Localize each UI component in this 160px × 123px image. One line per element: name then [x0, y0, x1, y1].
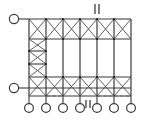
joint-node — [28, 50, 30, 52]
joint-node — [79, 76, 81, 78]
base-pin-support-6 — [110, 104, 119, 113]
joint-node — [62, 38, 64, 40]
top-dimension-mark — [95, 4, 99, 14]
joint-node — [113, 18, 115, 20]
base-pin-support-1 — [25, 104, 34, 113]
joint-node — [45, 50, 47, 52]
joint-node — [96, 38, 98, 40]
joint-node — [45, 63, 47, 65]
base-pin-support-2 — [42, 104, 51, 113]
left-top-pin-support-circle — [9, 14, 18, 23]
dashed-chord-overlay-group — [47, 19, 130, 96]
left-bay-tower-group — [29, 39, 46, 77]
truss-elevation-svg — [0, 0, 160, 123]
base-pin-support-4 — [76, 104, 85, 113]
left-support-group — [9, 14, 29, 92]
column-group — [29, 19, 131, 96]
joint-node — [96, 18, 98, 20]
left-bottom-pin-support-circle — [9, 83, 18, 92]
structural-frame-diagram — [0, 0, 160, 123]
joint-node — [96, 76, 98, 78]
joint-node — [45, 38, 47, 40]
joint-node — [62, 76, 64, 78]
joint-node — [113, 76, 115, 78]
joint-node — [113, 38, 115, 40]
base-pin-support-5 — [93, 104, 102, 113]
base-pin-support-3 — [59, 104, 68, 113]
joint-node — [28, 63, 30, 65]
base-support-group — [25, 96, 136, 112]
base-pin-support-7 — [127, 104, 136, 113]
joint-node — [45, 18, 47, 20]
joint-node — [79, 38, 81, 40]
joint-node — [79, 18, 81, 20]
joint-node — [45, 76, 47, 78]
joint-node — [62, 18, 64, 20]
bottom-dimension-mark — [86, 100, 90, 108]
